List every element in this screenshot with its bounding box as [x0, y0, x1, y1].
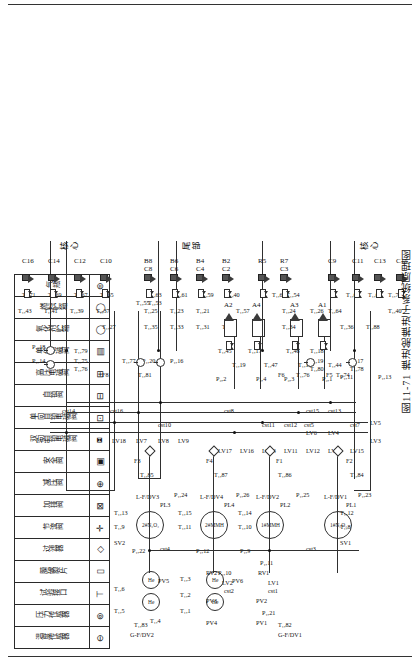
temperature-sensor-icon: ⊖	[90, 627, 109, 648]
sensor-tag-t111: T₁,11	[178, 524, 191, 531]
sensor-tag-p22: P₂,2	[216, 376, 226, 383]
thruster-label-a4: A4	[252, 302, 261, 309]
thruster-c8	[144, 274, 156, 283]
legend-entry: 节流阀 ✛	[15, 516, 109, 538]
valve-tag-lv3: LV3	[370, 438, 381, 445]
sensor-tag-p121: P₁,21	[262, 610, 275, 617]
valve-tag-lv15: LV15	[350, 448, 364, 455]
sensor-tag-p122: P₁,22	[132, 548, 145, 555]
sensor-tag-t16: T₁,6	[114, 586, 125, 593]
thruster-c14	[48, 274, 60, 283]
solenoid-valve	[24, 290, 32, 299]
sensor-tag-t178: T₁,78	[350, 366, 364, 373]
valve-tag-rv1: RV1	[258, 570, 269, 577]
sensor-tag-t147: T₁,47	[264, 362, 278, 369]
sensor-tag-t19: T₁,9	[114, 524, 125, 531]
sensor-tag-t175: T₁,75	[74, 358, 88, 365]
sensor-tag-t13: T₁,3	[180, 576, 191, 583]
valve-tag-pv6: PV6	[232, 578, 243, 585]
valve-tag-sv1: SV1	[340, 540, 351, 547]
thruster-c10	[100, 274, 112, 283]
sensor-tag-p123: P₁,23	[358, 492, 371, 499]
sensor-tag-t12: T₁,2	[180, 592, 191, 599]
manifold-riser	[149, 550, 359, 551]
sensor-tag-t187: T₁,87	[214, 472, 228, 479]
thruster-label-c13: C13	[374, 258, 386, 265]
sensor-tag-p116: P₁,16	[170, 358, 183, 365]
tank-2-mmh: 2#MMH	[200, 511, 228, 539]
filter-tag-f4: F4	[206, 458, 213, 465]
thruster-label-c8: C8	[144, 266, 152, 273]
feed-line-tank1-mmh	[269, 453, 270, 573]
feed-line-tank2-mmh	[213, 453, 214, 573]
legend-entry: 氧化剂贮箱 ◯	[15, 318, 109, 340]
junction-dot	[148, 549, 151, 552]
legend-entry: 膜破裂片 ▯	[15, 560, 109, 582]
tank-2-n2o4: 2#N₂O₄	[136, 511, 164, 539]
junction-dot	[113, 421, 116, 424]
legend-label: 节流阀	[15, 517, 90, 538]
unidirectional-latching-solenoid-valve-icon: ⊡	[90, 407, 109, 428]
legend-entry: 高压电磁阀 ⊞	[15, 362, 109, 384]
filter-tag-f2: F2	[346, 458, 353, 465]
valve-tag-pv1: PV1	[256, 620, 267, 627]
port-tag-pl4: PL4	[224, 502, 234, 509]
thruster-label-r5: R5	[258, 258, 266, 265]
legend-entry: 压力传感器 ⊚	[15, 604, 109, 626]
sensor-tag-t144: T₁,44	[328, 362, 342, 369]
junction-dot	[353, 349, 356, 352]
pressure-sensor	[136, 358, 145, 367]
feed-line-tank2-n2o4	[149, 453, 150, 573]
junction-dot	[157, 349, 160, 352]
sensor-tag-t179: T₁,79	[74, 348, 88, 355]
thruster-c16	[22, 274, 34, 283]
solenoid-valve	[330, 290, 338, 299]
sensor-tag-t184: T₁,84	[350, 472, 364, 479]
filter-tag-f1: F1	[276, 458, 283, 465]
thruster-label-c10: C10	[100, 258, 112, 265]
legend-label: 温度传感器	[15, 627, 90, 648]
solenoid-valve	[260, 290, 268, 299]
port-tag-pl1: PL1	[346, 502, 356, 509]
solenoid-valve	[226, 342, 234, 351]
junction-dot	[261, 421, 264, 424]
sensor-tag-t182: T₁,82	[278, 622, 292, 629]
sensor-tag-t137: T₁,37	[96, 308, 110, 315]
filter-tag-f5: F5	[326, 372, 333, 379]
zone-label-core-bottom: 核心	[360, 241, 379, 253]
junction-dot	[297, 411, 300, 414]
throttle-valve-icon: ✛	[90, 517, 109, 538]
fill-drain-tag-gfdv1: G-F/DV1	[278, 632, 302, 639]
legend-entry: 试验接口 ⊤	[15, 582, 109, 604]
sensor-tag-t15: T₁,5	[114, 608, 125, 615]
solenoid-valve	[50, 290, 58, 299]
legend-entry: 安全阀 ▣	[15, 450, 109, 472]
filter-tag-f8: F8	[102, 372, 109, 379]
junction-dot	[159, 401, 162, 404]
pressure-sensor	[46, 346, 55, 355]
sensor-tag-t134: T₁,34	[282, 324, 296, 331]
sensor-tag-t183: T₁,83	[134, 622, 148, 629]
thruster-label-r7: R7	[280, 258, 288, 265]
junction-dot	[233, 431, 236, 434]
tank-label: 2#MMH	[205, 522, 224, 528]
route-top-2	[114, 311, 115, 491]
valve-tag-lv5: LV5	[370, 420, 381, 427]
valve-tag-lv10: LV10	[36, 438, 50, 445]
solenoid-valve	[146, 290, 154, 299]
route-left-2	[138, 478, 160, 479]
sensor-tag-p23: P₂,3	[284, 376, 294, 383]
fill-drain-tag-lfdv1: L-F/DV1	[324, 494, 347, 501]
zone-label-tail: 尾部	[182, 241, 201, 253]
sensor-tag-t135: T₁,35	[144, 324, 158, 331]
sensor-tag-t174: T₁,74	[336, 372, 350, 379]
pressure-sensor	[348, 358, 357, 367]
port-tag-pl2: PL2	[280, 502, 290, 509]
valve-tag-lv2: LV2	[222, 580, 233, 587]
thruster-label-c16: C16	[22, 258, 34, 265]
valve-tag-pv5: PV5	[158, 578, 169, 585]
pressure-sensor	[46, 360, 55, 369]
fill-drain-tag-gfdv2: G-F/DV2	[130, 632, 154, 639]
sensor-tag-t125: T₁,25	[144, 308, 158, 315]
thruster-c4	[196, 274, 208, 283]
